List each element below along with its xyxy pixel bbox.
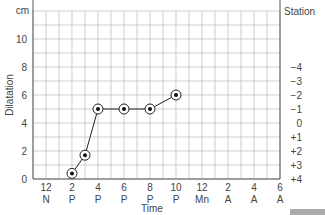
data-point-dot <box>83 153 87 157</box>
x-tick-label-top: 12 <box>196 182 208 193</box>
station-axis-title: Station <box>284 6 315 17</box>
y-tick-label: 4 <box>21 118 27 129</box>
station-tick-label: +4 <box>291 174 303 185</box>
x-tick-label-top: 12 <box>40 182 52 193</box>
x-tick-label-top: 10 <box>170 182 182 193</box>
x-tick-label-bottom: P <box>69 194 76 205</box>
x-axis-title: Time <box>141 203 163 214</box>
x-tick-label-bottom: A <box>277 194 284 205</box>
x-tick-label-bottom: A <box>251 194 258 205</box>
partograph-chart: 0246810cmDilatationStation−4−3−2−10+1+2+… <box>0 0 325 215</box>
station-tick-label: +3 <box>291 160 303 171</box>
data-point-dot <box>70 171 74 175</box>
scrollbar-fragment <box>290 209 325 215</box>
y-axis-title: Dilatation <box>4 74 15 116</box>
data-point-dot <box>96 107 100 111</box>
y-tick-label: 6 <box>21 90 27 101</box>
x-tick-label-bottom: A <box>225 194 232 205</box>
x-tick-label-top: 4 <box>251 182 257 193</box>
data-point-dot <box>122 107 126 111</box>
x-tick-label-top: 6 <box>277 182 283 193</box>
x-tick-label-top: 6 <box>121 182 127 193</box>
y-tick-label: 8 <box>21 62 27 73</box>
station-tick-label: −4 <box>291 62 303 73</box>
x-tick-label-top: 8 <box>147 182 153 193</box>
x-tick-label-bottom: P <box>121 194 128 205</box>
x-tick-label-bottom: N <box>42 194 49 205</box>
x-tick-label-bottom: P <box>173 194 180 205</box>
y-tick-label: 0 <box>21 174 27 185</box>
data-point-dot <box>148 107 152 111</box>
data-point-dot <box>174 93 178 97</box>
station-tick-label: +1 <box>291 132 303 143</box>
y-tick-label: 2 <box>21 146 27 157</box>
x-tick-label-top: 2 <box>69 182 75 193</box>
y-unit-label: cm <box>16 5 29 16</box>
y-tick-label: 10 <box>16 34 28 45</box>
x-tick-label-bottom: Mn <box>195 194 209 205</box>
station-tick-label: −3 <box>291 76 303 87</box>
station-tick-label: +2 <box>291 146 303 157</box>
x-tick-label-top: 4 <box>95 182 101 193</box>
station-tick-label: −2 <box>291 90 303 101</box>
station-tick-label: 0 <box>296 118 302 129</box>
x-tick-label-bottom: P <box>95 194 102 205</box>
x-tick-label-top: 2 <box>225 182 231 193</box>
station-tick-label: −1 <box>291 104 303 115</box>
